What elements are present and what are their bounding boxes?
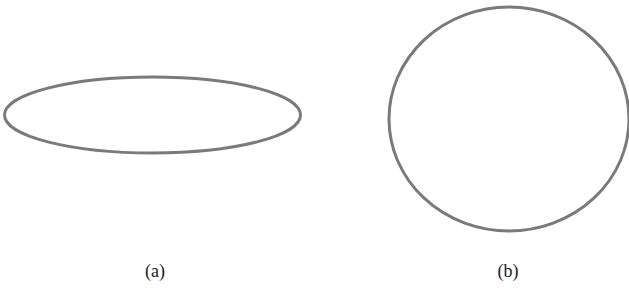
circle-shape bbox=[389, 7, 629, 231]
panel-label-b: (b) bbox=[498, 261, 519, 282]
figure-canvas bbox=[0, 0, 629, 300]
panel-label-a: (a) bbox=[145, 261, 165, 282]
flat-ellipse-shape bbox=[5, 77, 301, 153]
